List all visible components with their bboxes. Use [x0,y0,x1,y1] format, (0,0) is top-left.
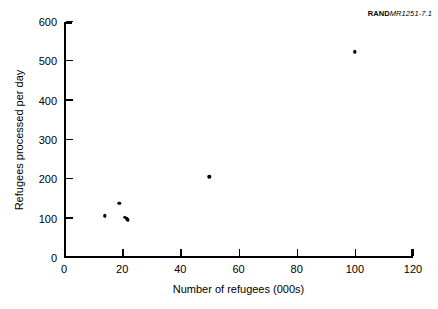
x-axis-tick-label: 60 [232,264,244,275]
y-axis-tick [66,99,73,100]
data-point [208,175,211,178]
figure-identifier: RANDMR1251-7.1 [368,9,432,18]
scatter-chart-figure: RANDMR1251-7.1 Refugees processed per da… [0,0,438,309]
y-axis-tick [66,139,73,140]
y-axis-tick-label: 500 [39,56,57,67]
figure-identifier-number: MR1251-7.1 [390,9,432,18]
x-axis-title-text: Number of refugees (000s) [173,283,304,295]
y-axis-tick [66,21,73,22]
data-point [126,218,129,221]
data-point [118,201,121,204]
x-axis-tick-label: 40 [174,264,186,275]
x-axis-tick [297,249,298,256]
y-axis-title-text: Refugees processed per day [13,70,25,211]
figure-identifier-brand: RAND [368,9,390,18]
x-axis-tick-label: 100 [346,264,364,275]
x-axis-tick-label: 80 [291,264,303,275]
plot-area: 0100200300400500600 020406080100120 [64,22,413,258]
data-point [353,50,356,53]
x-axis-line [64,256,413,258]
y-axis-tick-label: 300 [39,135,57,146]
y-axis-tick [66,60,73,61]
x-axis-title: Number of refugees (000s) [64,283,413,295]
y-axis-tick [66,217,73,218]
x-axis-tick-label: 120 [404,264,422,275]
y-axis-tick [66,257,73,258]
y-axis-tick [66,178,73,179]
x-axis-tick [413,249,414,256]
y-axis-tick-label: 600 [39,17,57,28]
y-axis-top-stub [64,22,72,24]
y-axis-tick-label: 400 [39,95,57,106]
y-axis-title: Refugees processed per day [12,22,26,258]
data-point [103,214,106,217]
y-axis-tick-label: 200 [39,174,57,185]
x-axis-tick [122,249,123,256]
x-axis-tick [355,249,356,256]
x-axis-tick-label: 20 [116,264,128,275]
x-axis-tick [180,249,181,256]
y-axis-tick-label: 100 [39,213,57,224]
x-axis-tick-label: 0 [61,264,67,275]
y-axis-line [64,22,66,258]
x-axis-tick [239,249,240,256]
y-axis-tick-label: 0 [51,253,57,264]
